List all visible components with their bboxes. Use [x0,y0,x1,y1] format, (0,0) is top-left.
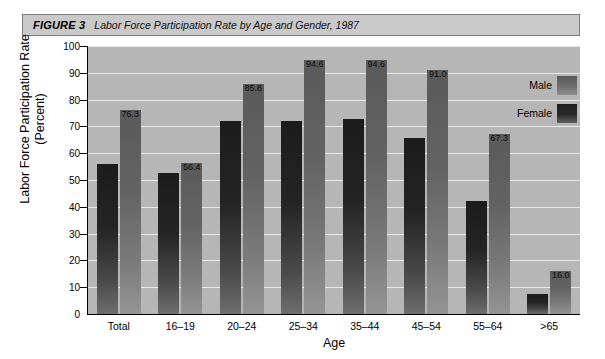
bar-value-label: 76.3 [121,109,139,119]
y-axis-tick-label: 10 [69,282,80,293]
x-axis-tick-label: >65 [540,320,558,332]
y-axis-tick-mark [80,180,87,181]
y-axis-tick-mark [80,234,87,235]
legend-swatch-male-icon [557,76,577,95]
y-axis-tick-label: 0 [74,309,80,320]
x-axis-tick-label: 45–54 [412,320,441,332]
bar-group: 94.6 [273,46,335,314]
bar-male: 91.0 [427,70,448,314]
x-axis-tick-label: Total [108,320,130,332]
bar-female [97,164,118,314]
legend-item-male: Male [489,74,577,96]
y-axis-tick-mark [80,46,87,47]
bar-male: 94.6 [366,60,387,314]
bar-female [404,138,425,314]
y-axis-tick-mark [80,153,87,154]
bar-female [220,121,241,314]
x-axis-tick-label: 16–19 [166,320,195,332]
figure-title: Labor Force Participation Rate by Age an… [94,19,359,31]
bar-female [158,173,179,315]
legend: Male Female [489,74,577,130]
bar-value-label: 94.6 [306,59,324,69]
y-axis-tick-label: 60 [69,148,80,159]
y-axis-tick-mark [80,207,87,208]
bar-value-label: 85.8 [244,83,262,93]
bar-group: 56.4 [150,46,212,314]
legend-label-female: Female [517,107,552,119]
y-axis-label: Labor Force Participation Rate (Percent) [18,29,48,209]
bar-female [466,201,487,314]
bar-group: 94.6 [334,46,396,314]
bar-male: 56.4 [181,163,202,314]
bar-female [343,119,364,314]
y-axis-tick-mark [80,73,87,74]
x-axis-line [87,314,580,315]
bar-value-label: 16.0 [552,270,570,280]
figure-container: FIGURE 3 Labor Force Participation Rate … [0,0,605,359]
bar-value-label: 67.3 [490,133,508,143]
bar-value-label: 94.6 [367,59,385,69]
y-axis-tick-label: 20 [69,255,80,266]
y-axis-tick-mark [80,287,87,288]
y-axis-tick-mark [80,126,87,127]
bar-group: 85.8 [211,46,273,314]
y-axis-tick-label: 90 [69,67,80,78]
bar-value-label: 56.4 [183,162,201,172]
x-axis-label: Age [88,336,580,350]
y-axis-tick-label: 50 [69,175,80,186]
x-axis-tick-label: 35–44 [350,320,379,332]
bar-group: 91.0 [396,46,458,314]
bar-male: 76.3 [120,110,141,314]
y-axis-tick-label: 30 [69,228,80,239]
y-axis-tick-label: 70 [69,121,80,132]
bar-male: 16.0 [550,271,571,314]
legend-swatch-female-icon [557,104,577,123]
y-axis-tick-label: 40 [69,201,80,212]
bar-female [281,121,302,314]
x-axis-tick-label: 55–64 [473,320,502,332]
figure-caption-bar: FIGURE 3 Labor Force Participation Rate … [22,14,580,36]
bar-male: 85.8 [243,84,264,314]
x-axis-tick-label: 25–34 [289,320,318,332]
y-axis-tick-mark [80,260,87,261]
y-axis-tick-mark [80,100,87,101]
y-axis-ticks: 0102030405060708090100 [50,46,80,314]
bar-female [527,294,548,314]
y-axis-tick-label: 80 [69,94,80,105]
bar-group: 76.3 [88,46,150,314]
legend-label-male: Male [529,79,552,91]
y-axis-tick-label: 100 [63,41,80,52]
bar-value-label: 91.0 [429,69,447,79]
bar-male: 94.6 [304,60,325,314]
legend-item-female: Female [489,102,577,124]
bar-male: 67.3 [489,134,510,314]
x-axis-tick-label: 20–24 [227,320,256,332]
